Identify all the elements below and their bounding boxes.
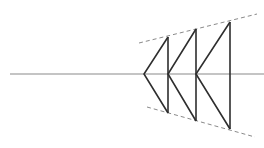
dashed-guide-lines bbox=[139, 14, 257, 137]
chevron-arrow-3 bbox=[196, 22, 230, 129]
chevron-group bbox=[144, 22, 230, 129]
chevron-diagram bbox=[0, 0, 264, 148]
chevron-arrow-1 bbox=[144, 37, 168, 113]
chevron-arrow-2 bbox=[168, 29, 196, 121]
bottom-dashed-guide bbox=[147, 107, 255, 137]
top-dashed-guide bbox=[139, 14, 257, 43]
